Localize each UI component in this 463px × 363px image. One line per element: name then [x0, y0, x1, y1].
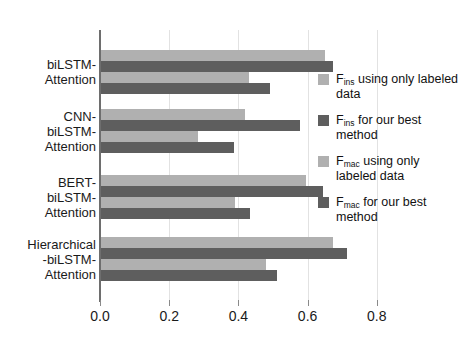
x-tick-mark [238, 300, 239, 306]
legend-swatch-light [318, 74, 329, 85]
legend-item[interactable]: Fmac for our best method [318, 195, 460, 224]
category-labels: biLSTM- AttentionCNN- biLSTM- AttentionB… [0, 30, 96, 300]
legend-label: Fmac using only labeled data [336, 154, 460, 183]
legend-label: Fins using only labeled data [336, 72, 460, 101]
legend-item[interactable]: Fmac using only labeled data [318, 154, 460, 183]
bar [100, 131, 198, 142]
x-tick-label: 0.6 [286, 308, 330, 324]
category-label: BERT- biLSTM- Attention [0, 175, 96, 220]
bar [100, 197, 235, 208]
legend-item[interactable]: Fins for our best method [318, 113, 460, 142]
bar [100, 237, 333, 248]
bar [100, 61, 333, 72]
x-tick-mark [100, 300, 101, 306]
bar [100, 109, 245, 120]
legend-swatch-light [318, 156, 329, 167]
x-tick-mark [308, 300, 309, 306]
x-tick-label: 0.0 [78, 308, 122, 324]
x-tick-label: 0.2 [147, 308, 191, 324]
bar-chart: biLSTM- AttentionCNN- biLSTM- AttentionB… [0, 0, 463, 363]
bar [100, 248, 347, 259]
legend-label: Fmac for our best method [336, 195, 460, 224]
bar [100, 186, 323, 197]
category-label: biLSTM- Attention [0, 57, 96, 87]
legend-item[interactable]: Fins using only labeled data [318, 72, 460, 101]
bar [100, 208, 250, 219]
chart-legend: Fins using only labeled dataFins for our… [318, 72, 460, 236]
bar [100, 175, 306, 186]
x-tick-mark [377, 300, 378, 306]
category-label: CNN- biLSTM- Attention [0, 109, 96, 154]
bar [100, 72, 249, 83]
bar [100, 270, 277, 281]
bar [100, 50, 325, 61]
bar [100, 83, 270, 94]
bar [100, 120, 300, 131]
x-tick-label: 0.4 [216, 308, 260, 324]
x-tick-mark [169, 300, 170, 306]
legend-swatch-dark [318, 197, 329, 208]
legend-label: Fins for our best method [336, 113, 460, 142]
x-axis: 0.00.20.40.60.8 [100, 300, 446, 330]
bar-group [100, 237, 446, 281]
legend-swatch-dark [318, 115, 329, 126]
y-axis-line [99, 30, 101, 302]
bar [100, 259, 266, 270]
x-tick-label: 0.8 [355, 308, 399, 324]
bar [100, 142, 234, 153]
category-label: Hierarchical -biLSTM- Attention [0, 237, 96, 282]
